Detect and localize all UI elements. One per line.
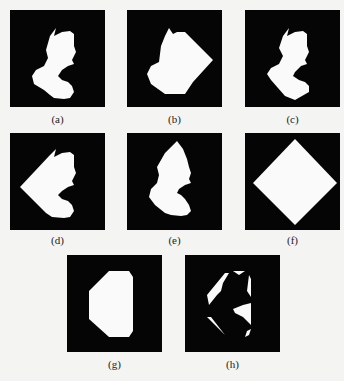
panel-a-label: (a) (10, 113, 105, 125)
convex-hull-shape (67, 255, 162, 352)
panel-h-label: (h) (185, 358, 280, 370)
hull-difference-shape (185, 255, 280, 352)
panel-g-label: (g) (67, 358, 162, 370)
panel-g-image (67, 255, 162, 352)
top-point-shape (127, 133, 222, 230)
panel-f-image (245, 133, 340, 230)
panel-f-label: (f) (245, 234, 340, 246)
panel-b-label: (b) (127, 113, 222, 125)
left-point-shape (10, 133, 105, 230)
convex-extension-shape (127, 10, 222, 107)
panel-e-label: (e) (127, 234, 222, 246)
diagonal-cut-shape (245, 10, 340, 107)
silhouette-shape (10, 10, 105, 107)
diamond-shape (245, 133, 340, 230)
panel-c-label: (c) (245, 113, 340, 125)
panel-c-image (245, 10, 340, 107)
panel-b-image (127, 10, 222, 107)
panel-d-label: (d) (10, 234, 105, 246)
panel-e-image (127, 133, 222, 230)
panel-a-image (10, 10, 105, 107)
panel-h-image (185, 255, 280, 352)
panel-d-image (10, 133, 105, 230)
